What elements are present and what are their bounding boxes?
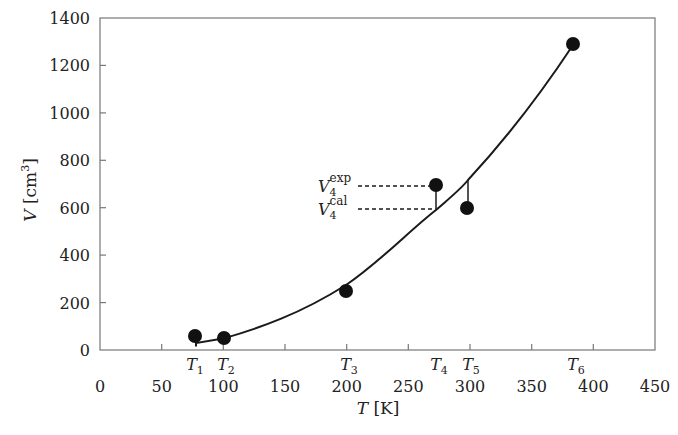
x-tick-label: 200 (331, 377, 362, 396)
x-tick-labels: 0 50 100 150 200 250 300 350 400 450 (95, 377, 670, 396)
y-tick-label: 600 (59, 199, 90, 218)
data-point-t5 (460, 201, 474, 215)
x-tick-label: 100 (208, 377, 239, 396)
data-point-t2 (217, 331, 231, 345)
x-tick-label: 0 (95, 377, 105, 396)
data-point-t1 (188, 329, 202, 343)
y-tick-label: 1200 (49, 56, 90, 75)
x-tick-label: 450 (640, 377, 671, 396)
x-tick-label: 350 (516, 377, 547, 396)
x-tick-label: 400 (578, 377, 609, 396)
t-marker-1: T1 (186, 355, 204, 377)
data-point-t4 (429, 178, 443, 192)
fit-curve (196, 45, 573, 346)
t-marker-6: T6 (567, 355, 585, 377)
x-tick-label: 50 (152, 377, 172, 396)
y-axis-ticks (100, 65, 106, 302)
data-point-t3 (339, 284, 353, 298)
t-marker-4: T4 (430, 355, 448, 377)
data-point-t6 (566, 37, 580, 51)
x-axis-ticks (162, 344, 594, 350)
data-points (188, 37, 580, 345)
y-tick-label: 1000 (49, 104, 90, 123)
x-tick-label: 150 (270, 377, 301, 396)
t-marker-5: T5 (462, 355, 480, 377)
chart-canvas: 0 200 400 600 800 1000 1200 1400 0 50 10… (0, 0, 678, 435)
y-tick-label: 1400 (49, 9, 90, 28)
y-tick-label: 400 (59, 246, 90, 265)
vcal-label: V4cal (318, 194, 347, 222)
x-axis-title: T [K] (357, 398, 400, 418)
t-markers: T1 T2 T3 T4 T5 T6 (186, 355, 585, 377)
y-tick-label: 0 (80, 341, 90, 360)
y-tick-labels: 0 200 400 600 800 1000 1200 1400 (49, 9, 90, 360)
t-marker-2: T2 (217, 355, 235, 377)
t-marker-3: T3 (340, 355, 358, 377)
x-tick-label: 250 (393, 377, 424, 396)
y-tick-label: 200 (59, 294, 90, 313)
x-tick-label: 300 (455, 377, 486, 396)
y-axis-title: V [cm3] (19, 158, 40, 222)
y-tick-label: 800 (59, 151, 90, 170)
plot-frame (100, 18, 655, 350)
